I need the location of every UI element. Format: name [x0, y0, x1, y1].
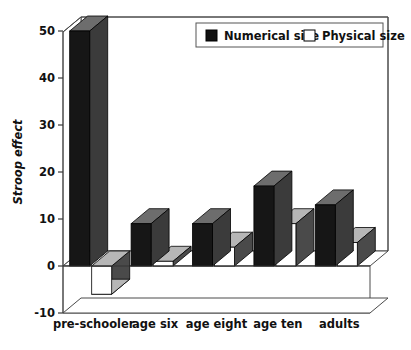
legend-swatch-numerical-size — [206, 30, 217, 41]
bar-front-face — [70, 31, 90, 266]
legend-label-physical-size: Physical size — [322, 29, 405, 43]
y-tick-label: -10 — [34, 306, 55, 320]
y-tick-label: 10 — [39, 212, 55, 226]
y-tick-label: 30 — [39, 118, 55, 132]
bar-front-face — [315, 205, 335, 266]
bar-numerical-0 — [70, 16, 108, 266]
y-tick-label: 50 — [39, 24, 55, 38]
x-axis-categories: pre-schoolerage sixage eightage tenadult… — [53, 317, 360, 331]
bar-front-face — [131, 224, 151, 266]
y-tick-label: 40 — [39, 71, 55, 85]
category-label-3: age ten — [253, 317, 302, 331]
bar-front-face — [92, 266, 112, 294]
legend: Numerical sizePhysical size — [196, 23, 405, 47]
bar-front-face — [193, 224, 213, 266]
floor-face — [63, 298, 388, 313]
bar-side-face — [90, 16, 108, 266]
y-tick-label: 20 — [39, 165, 55, 179]
category-label-0: pre-schooler — [53, 317, 135, 331]
stroop-effect-bar-chart: -1001020304050Stroop effectpre-schoolera… — [0, 0, 411, 350]
bar-numerical-4 — [315, 190, 353, 266]
category-label-2: age eight — [186, 317, 248, 331]
y-axis: -1001020304050Stroop effect — [11, 24, 63, 320]
bar-front-face — [254, 186, 274, 266]
y-axis-title: Stroop effect — [11, 119, 25, 204]
legend-swatch-physical-size — [304, 30, 315, 41]
bar-numerical-3 — [254, 171, 292, 266]
y-tick-label: 0 — [47, 259, 55, 273]
category-label-4: adults — [319, 317, 360, 331]
bar-side-face — [274, 171, 292, 266]
category-label-1: age six — [132, 317, 179, 331]
chart-canvas: -1001020304050Stroop effectpre-schoolera… — [0, 0, 411, 350]
